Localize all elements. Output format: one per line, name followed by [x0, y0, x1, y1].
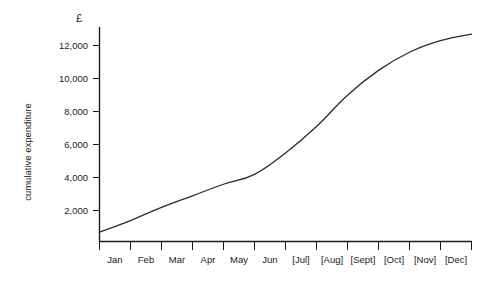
y-axis-tick-labels: 12,000 10,000 8,000 6,000 4,000 2,000 — [59, 40, 88, 216]
chart-canvas: £ cumulative expenditure 12,000 10,000 8… — [0, 0, 495, 283]
x-tick-label-apr: Apr — [201, 254, 216, 265]
y-axis-title: cumulative expenditure — [22, 103, 33, 201]
x-tick-label-jan: Jan — [107, 254, 122, 265]
y-tick-label: 2,000 — [64, 205, 88, 216]
cumulative-expenditure-line — [100, 34, 472, 232]
y-tick-label: 4,000 — [64, 172, 88, 183]
x-tick-label-may: May — [230, 254, 248, 265]
currency-symbol: £ — [76, 12, 82, 24]
x-axis-tick-labels: JanFebMarAprMayJun[Jul][Aug][Sept][Oct][… — [107, 254, 467, 265]
x-tick-label-sept: [Sept] — [351, 254, 376, 265]
x-tick-label-aug: [Aug] — [321, 254, 343, 265]
x-tick-label-feb: Feb — [138, 254, 154, 265]
x-axis-ticks — [100, 242, 472, 250]
x-tick-label-oct: [Oct] — [384, 254, 404, 265]
x-tick-label-jun: Jun — [262, 254, 277, 265]
y-axis-ticks — [93, 46, 100, 211]
x-tick-label-dec: [Dec] — [445, 254, 467, 265]
cumulative-expenditure-chart: £ cumulative expenditure 12,000 10,000 8… — [0, 0, 495, 283]
x-tick-label-mar: Mar — [169, 254, 185, 265]
y-tick-label: 8,000 — [64, 106, 88, 117]
y-tick-label: 10,000 — [59, 73, 88, 84]
x-tick-label-jul: [Jul] — [292, 254, 309, 265]
y-tick-label: 6,000 — [64, 139, 88, 150]
y-tick-label: 12,000 — [59, 40, 88, 51]
x-tick-label-nov: [Nov] — [414, 254, 436, 265]
